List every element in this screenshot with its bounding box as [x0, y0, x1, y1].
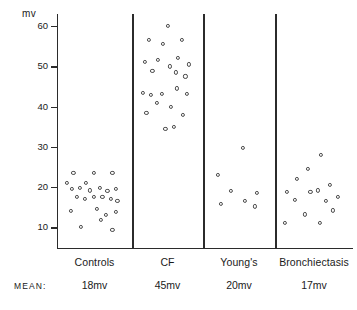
data-point: [324, 199, 328, 203]
data-point: [79, 224, 83, 228]
data-point: [292, 198, 296, 202]
y-tick-10: [51, 227, 57, 228]
data-point: [176, 56, 180, 60]
data-point: [91, 195, 95, 199]
data-point: [99, 218, 103, 222]
data-point: [318, 220, 322, 224]
data-point: [75, 195, 79, 199]
y-tick-60: [51, 26, 57, 27]
data-point: [253, 204, 257, 208]
data-point: [147, 38, 151, 42]
y-tick-label-50: 50: [26, 60, 48, 71]
data-point: [91, 171, 95, 175]
data-point: [110, 171, 114, 175]
data-point: [303, 212, 307, 216]
data-point: [331, 208, 335, 212]
y-tick-label-20: 20: [26, 181, 48, 192]
data-point: [83, 197, 87, 201]
y-tick-label-30: 30: [26, 141, 48, 152]
data-point: [169, 105, 173, 109]
data-point: [181, 113, 185, 117]
data-point: [219, 202, 223, 206]
data-point: [104, 213, 108, 217]
data-point: [163, 127, 167, 131]
data-point: [115, 199, 119, 203]
data-point: [171, 125, 175, 129]
data-point: [336, 195, 340, 199]
y-tick-20: [51, 187, 57, 188]
data-point: [114, 187, 118, 191]
y-axis-unit-label: mv: [22, 8, 36, 19]
data-point: [141, 90, 145, 94]
data-point: [229, 189, 233, 193]
data-point: [187, 62, 191, 66]
data-point: [319, 153, 323, 157]
mean-value-controls: 18mv: [57, 279, 132, 291]
data-point: [243, 199, 247, 203]
data-point: [114, 210, 118, 214]
data-point: [150, 69, 154, 73]
y-tick-label-60: 60: [26, 20, 48, 31]
data-point: [144, 111, 148, 115]
data-point: [184, 92, 188, 96]
data-point: [295, 177, 299, 181]
data-point: [109, 197, 113, 201]
data-point: [155, 100, 159, 104]
mean-value-bronchiectasis: 17mv: [275, 279, 353, 291]
data-point: [174, 70, 178, 74]
data-point: [71, 171, 75, 175]
y-axis-line: [57, 14, 58, 248]
y-tick-50: [51, 66, 57, 67]
data-point: [161, 42, 165, 46]
data-point: [160, 92, 164, 96]
data-point: [84, 181, 88, 185]
data-point: [175, 86, 179, 90]
separator-line-2: [203, 14, 205, 248]
group-label-cf: CF: [132, 256, 203, 268]
data-point: [70, 187, 74, 191]
data-point: [65, 181, 69, 185]
separator-line-3: [275, 14, 277, 248]
data-point: [105, 189, 109, 193]
y-tick-label-10: 10: [26, 221, 48, 232]
data-point: [285, 190, 289, 194]
mean-row-label: MEAN:: [14, 281, 46, 291]
data-point: [328, 183, 332, 187]
mean-value-youngs: 20mv: [203, 279, 275, 291]
data-point: [98, 186, 102, 190]
data-point: [69, 209, 73, 213]
data-point: [166, 24, 170, 28]
group-label-youngs: Young's: [203, 256, 275, 268]
data-point: [156, 58, 160, 62]
data-point: [100, 195, 104, 199]
data-point: [308, 190, 312, 194]
x-axis-baseline: [57, 248, 353, 249]
data-point: [216, 173, 220, 177]
y-tick-label-40: 40: [26, 101, 48, 112]
separator-line-1: [132, 14, 134, 248]
y-tick-30: [51, 147, 57, 148]
data-point: [316, 188, 320, 192]
data-point: [110, 228, 114, 232]
data-point: [88, 188, 92, 192]
data-point: [78, 186, 82, 190]
data-point: [95, 207, 99, 211]
data-point: [168, 64, 172, 68]
data-point: [180, 38, 184, 42]
data-point: [183, 74, 187, 78]
group-label-bronchiectasis: Bronchiectasis: [275, 256, 353, 268]
data-point: [143, 60, 147, 64]
y-tick-40: [51, 107, 57, 108]
data-point: [306, 167, 310, 171]
chart-root: mv 102030405060 ControlsCFYoung'sBronchi…: [0, 0, 357, 310]
data-point: [283, 220, 287, 224]
group-label-controls: Controls: [57, 256, 132, 268]
data-point: [255, 191, 259, 195]
mean-value-cf: 45mv: [132, 279, 203, 291]
data-point: [241, 146, 245, 150]
data-point: [149, 92, 153, 96]
